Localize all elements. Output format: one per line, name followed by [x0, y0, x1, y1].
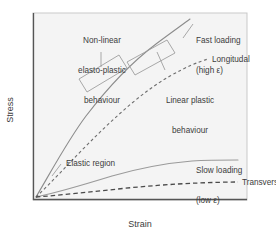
annotation-linear-plastic-line1: Linear plastic — [148, 96, 232, 106]
annotation-transverse: Transverse — [242, 178, 276, 188]
annotation-elastic-region: Elastic region — [66, 159, 146, 169]
annotation-linear-plastic-line2: behaviour — [148, 126, 232, 136]
y-axis-label: Stress — [5, 86, 15, 134]
x-axis-label: Strain — [33, 219, 247, 229]
annotation-linear-plastic: Linear plastic behaviour — [148, 76, 232, 156]
annotation-fast-loading-line1: Fast loading — [196, 36, 274, 46]
annotation-fast-loading-line2: (high ε) — [196, 66, 274, 76]
annotation-non-linear-line1: Non-linear — [58, 36, 146, 46]
annotation-non-linear-line3: behaviour — [58, 96, 146, 106]
annotation-slow-loading-line2: (low ε) — [196, 196, 272, 206]
annotation-slow-loading-line1: Slow loading — [196, 166, 272, 176]
annotation-non-linear: Non-linear elasto-plastic behaviour — [58, 16, 146, 126]
annotation-longitudal: Longitudal — [212, 55, 276, 65]
stress-strain-figure: Non-linear elasto-plastic behaviour Fast… — [0, 0, 276, 240]
annotation-non-linear-line2: elasto-plastic — [58, 66, 146, 76]
